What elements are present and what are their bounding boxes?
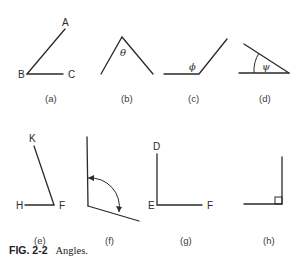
sublabel-f: (f) [105, 235, 114, 246]
panel-a: A B C (a) [18, 17, 75, 104]
panel-d: ψ (d) [239, 44, 289, 104]
point-label-c: C [68, 69, 75, 80]
sublabel-g: (g) [180, 235, 192, 246]
point-label-f-g: F [207, 200, 213, 211]
point-label-a: A [62, 17, 69, 28]
figure-caption: FIG. 2-2Angles. [9, 244, 88, 256]
panel-b: θ (b) [101, 37, 153, 104]
panel-c: ϕ (c) [164, 39, 227, 104]
sublabel-c: (c) [188, 93, 199, 104]
sublabel-h: (h) [263, 235, 275, 246]
point-label-k: K [29, 133, 36, 144]
caption-text: Angles. [56, 245, 88, 256]
panel-f: E [87, 137, 155, 221]
point-label-b: B [18, 69, 25, 80]
theta-symbol: θ [120, 47, 126, 58]
sublabel-b: (b) [121, 93, 133, 104]
point-label-h: H [16, 200, 23, 211]
sublabel-a: (a) [45, 93, 57, 104]
caption-number: FIG. 2-2 [9, 244, 48, 256]
angles-figure: A B C (a) θ (b) ϕ (c) ψ (d) K H F (e) [0, 0, 306, 278]
panel-g: D E F (g) [153, 141, 213, 246]
right-angle-marker-icon [275, 197, 282, 204]
phi-symbol: ϕ [189, 61, 196, 72]
panel-e: K H F (e) [16, 133, 65, 211]
psi-symbol: ψ [262, 61, 270, 72]
arrowhead-icon [88, 175, 94, 181]
point-label-d: D [153, 141, 160, 152]
sublabel-d: (d) [259, 93, 271, 104]
point-label-e-f: E [148, 200, 155, 211]
panel-h: (h) [244, 157, 282, 246]
point-label-f: F [59, 200, 65, 211]
arrowhead-icon [116, 206, 122, 212]
